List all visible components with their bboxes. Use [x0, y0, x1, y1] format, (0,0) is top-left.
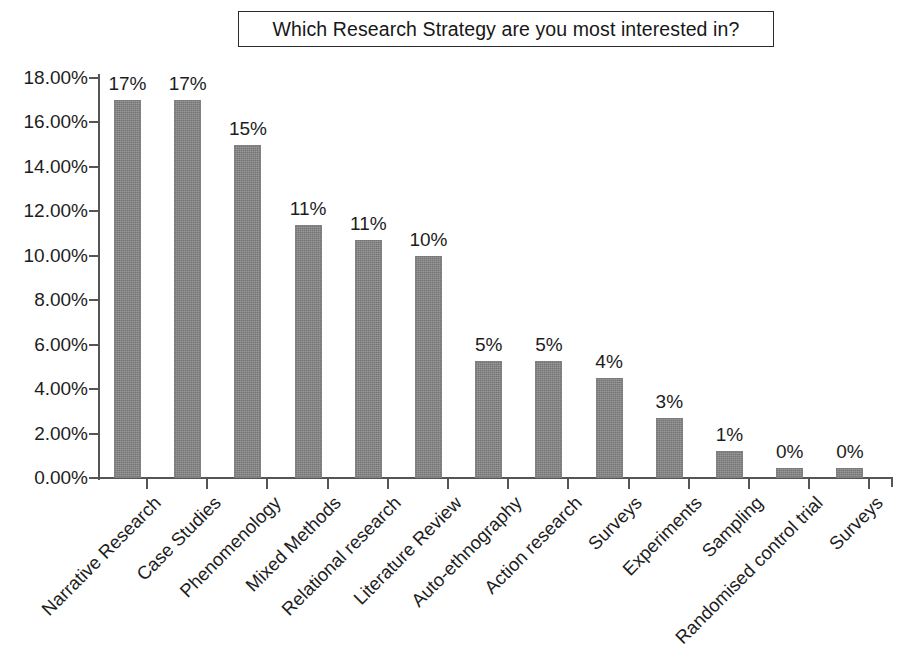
y-axis-tick-label: 10.00%	[24, 245, 88, 267]
bar[interactable]	[836, 468, 863, 478]
x-axis-tick-mark	[327, 479, 329, 489]
y-axis-tick-mark	[89, 121, 98, 123]
bar-value-label: 5%	[535, 334, 562, 356]
x-axis-tick-mark	[808, 479, 810, 489]
bar[interactable]	[295, 225, 322, 478]
bar-value-label: 11%	[350, 213, 387, 235]
y-axis-tick-label: 2.00%	[34, 423, 88, 445]
y-axis-tick-mark	[89, 344, 98, 346]
bar[interactable]	[656, 418, 683, 478]
x-axis-tick-mark	[387, 479, 389, 489]
x-axis-tick-mark	[146, 479, 148, 489]
x-axis-tick-mark	[567, 479, 569, 489]
x-axis-tick-mark	[447, 479, 449, 489]
bar[interactable]	[776, 468, 803, 478]
y-axis-tick-label: 14.00%	[24, 156, 88, 178]
x-axis-tick-mark	[628, 479, 630, 489]
x-axis-right-cap	[891, 478, 893, 487]
bar[interactable]	[535, 361, 562, 478]
y-axis-tick-mark	[89, 477, 98, 479]
bar-value-label: 1%	[716, 424, 743, 446]
y-axis-tick-label: 6.00%	[34, 334, 88, 356]
bar[interactable]	[475, 361, 502, 478]
y-axis-tick-label: 18.00%	[24, 67, 88, 89]
y-axis-tick-mark	[89, 166, 98, 168]
y-axis-tick-mark	[89, 210, 98, 212]
bar[interactable]	[716, 451, 743, 478]
y-axis-tick-mark	[89, 255, 98, 257]
y-axis-tick-mark	[89, 388, 98, 390]
x-axis-tick-mark	[868, 479, 870, 489]
y-axis-tick-label: 16.00%	[24, 111, 88, 133]
bar-value-label: 0%	[776, 441, 803, 463]
x-axis-tick-mark	[748, 479, 750, 489]
bar[interactable]	[355, 240, 382, 478]
x-axis-tick-mark	[206, 479, 208, 489]
bar-value-label: 17%	[108, 73, 146, 95]
bar[interactable]	[114, 100, 141, 478]
bar-value-label: 5%	[475, 334, 502, 356]
y-axis-labels: 0.00%2.00%4.00%6.00%8.00%10.00%12.00%14.…	[0, 0, 88, 654]
chart-title-box: Which Research Strategy are you most int…	[238, 11, 774, 47]
y-axis-tick-label: 12.00%	[24, 200, 88, 222]
bar[interactable]	[415, 256, 442, 478]
y-axis-tick-mark	[89, 299, 98, 301]
x-axis-tick-mark	[688, 479, 690, 489]
bar-value-label: 15%	[229, 118, 267, 140]
y-axis-tick-label: 8.00%	[34, 289, 88, 311]
y-axis-tick-mark	[89, 433, 98, 435]
y-axis-tick-label: 4.00%	[34, 378, 88, 400]
bar-value-label: 4%	[595, 351, 622, 373]
bar-value-label: 0%	[836, 441, 863, 463]
x-axis-tick-mark	[266, 479, 268, 489]
y-axis-tick-mark	[89, 77, 98, 79]
page-title: Which Research Strategy are you most int…	[273, 18, 740, 41]
bar-value-label: 17%	[169, 73, 207, 95]
bar-value-label: 11%	[290, 198, 327, 220]
bar-value-label: 3%	[656, 391, 683, 413]
x-axis-tick-mark	[507, 479, 509, 489]
bar[interactable]	[174, 100, 201, 478]
bar[interactable]	[596, 378, 623, 478]
bar-value-label: 10%	[409, 229, 447, 251]
bar[interactable]	[234, 145, 261, 478]
y-axis-tick-label: 0.00%	[34, 467, 88, 489]
plot-area	[98, 78, 893, 478]
